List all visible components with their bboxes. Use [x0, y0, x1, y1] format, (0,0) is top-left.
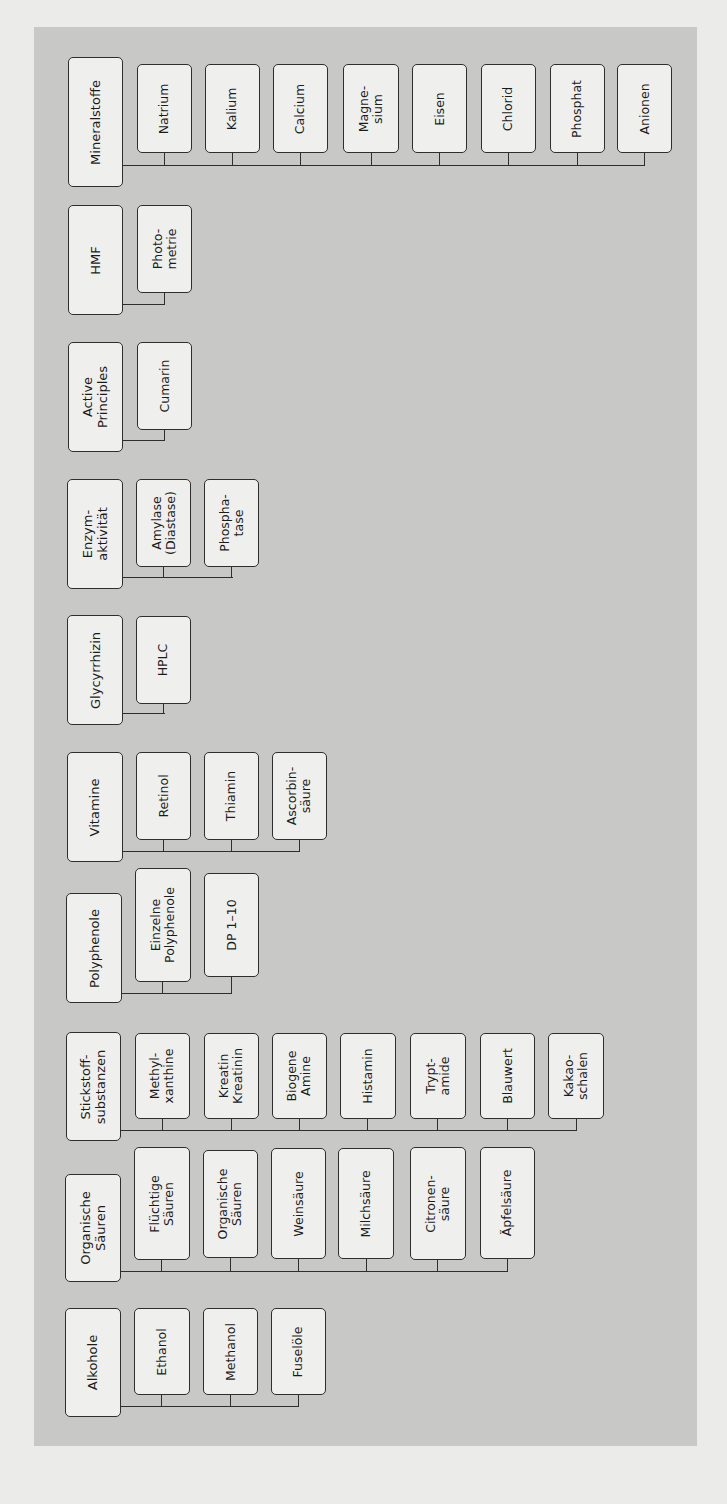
- node-enzymaktivitaet: Enzym- aktivität: [67, 479, 123, 589]
- connector-tick: [231, 977, 232, 993]
- node-hmf: HMF: [68, 205, 123, 315]
- connector-polyphenole: [122, 993, 232, 994]
- connector-tick: [367, 1119, 368, 1130]
- node-kalium: Kalium: [205, 64, 260, 153]
- connector-tick: [164, 153, 165, 165]
- node-amylase: Amylase (Diastase): [136, 479, 191, 567]
- node-methanol: Methanol: [203, 1308, 258, 1395]
- node-organische-saeuren-child: Organische Säuren: [203, 1150, 258, 1258]
- connector-tick: [507, 1259, 508, 1271]
- node-stickstoffsubstanzen: Stickstoff- substanzen: [66, 1032, 121, 1141]
- node-mineralstoffe: Mineralstoffe: [68, 57, 123, 187]
- connector-tick: [164, 293, 165, 305]
- connector-tick: [577, 153, 578, 165]
- node-natrium: Natrium: [137, 64, 192, 153]
- node-glycyrrhizin: Glycyrrhizin: [67, 615, 123, 725]
- node-einzelne-polyphenole: Einzelne Polyphenole: [135, 868, 191, 982]
- connector-vitamine: [123, 851, 300, 852]
- node-weinsaeure: Weinsäure: [271, 1148, 326, 1259]
- connector-tick: [163, 704, 164, 714]
- node-chlorid: Chlorid: [481, 64, 536, 153]
- node-blauwert: Blauwert: [480, 1033, 535, 1119]
- node-ethanol: Ethanol: [134, 1308, 190, 1395]
- node-photometrie: Photo- metrie: [137, 205, 192, 293]
- node-histamin: Histamin: [340, 1033, 396, 1119]
- connector-tick: [366, 1259, 367, 1271]
- connector-tick: [230, 1258, 231, 1271]
- node-vitamine: Vitamine: [67, 752, 123, 862]
- node-phosphat: Phosphat: [550, 64, 605, 153]
- node-phosphatase: Phospha- tase: [204, 479, 259, 567]
- connector-tick: [231, 840, 232, 851]
- node-cumarin: Cumarin: [137, 342, 192, 430]
- connector-enzymaktivitaet: [123, 577, 233, 578]
- connector-tick: [230, 1395, 231, 1406]
- connector-glycyrrhizin: [123, 713, 165, 714]
- connector-tick: [163, 840, 164, 851]
- connector-tick: [231, 567, 232, 578]
- connector-tick: [437, 1260, 438, 1271]
- node-ascorbinsaeure: Ascorbin- säure: [272, 752, 327, 840]
- connector-tick: [164, 430, 165, 441]
- connector-tick: [507, 1119, 508, 1130]
- node-fluechtige-saeuren: Flüchtige Säuren: [134, 1147, 190, 1260]
- node-aepfelsaeure: Äpfelsäure: [480, 1147, 535, 1259]
- node-active-principles: Active Principles: [68, 342, 123, 452]
- connector-tick: [439, 153, 440, 165]
- node-citronensaeure: Citronen- säure: [410, 1147, 466, 1260]
- connector-tick: [299, 1119, 300, 1130]
- connector-tick: [576, 1119, 577, 1130]
- node-dp-1-10: DP 1–10: [204, 873, 259, 977]
- node-biogene-amine: Biogene Amine: [272, 1033, 327, 1119]
- node-tryptamide: Trypt- amide: [410, 1033, 466, 1119]
- node-thiamin: Thiamin: [204, 752, 259, 840]
- node-magnesium: Magne- sium: [343, 64, 399, 153]
- connector-stickstoffsubstanzen: [121, 1130, 577, 1131]
- connector-alkohole: [121, 1406, 299, 1407]
- connector-mineralstoffe: [123, 165, 645, 166]
- connector-tick: [298, 1395, 299, 1406]
- connector-organische-saeuren: [121, 1271, 508, 1272]
- node-organische-saeuren: Organische Säuren: [65, 1174, 121, 1282]
- node-calcium: Calcium: [273, 64, 328, 153]
- node-anionen: Anionen: [617, 64, 672, 153]
- node-milchsaeure: Milchsäure: [338, 1148, 394, 1259]
- connector-tick: [508, 153, 509, 165]
- node-eisen: Eisen: [412, 64, 467, 153]
- connector-tick: [437, 1119, 438, 1130]
- node-methylxanthine: Methyl- xanthine: [135, 1033, 190, 1119]
- connector-tick: [644, 153, 645, 165]
- connector-tick: [371, 153, 372, 165]
- node-fuseloele: Fuselöle: [271, 1308, 326, 1395]
- connector-tick: [231, 1119, 232, 1130]
- connector-tick: [299, 840, 300, 851]
- connector-tick: [161, 1395, 162, 1406]
- connector-active-principles: [123, 440, 165, 441]
- node-retinol: Retinol: [136, 752, 191, 840]
- node-kreatin-kreatinin: Kreatin Kreatinin: [204, 1033, 259, 1119]
- connector-tick: [162, 982, 163, 993]
- node-kakaoschalen: Kakao- schalen: [548, 1033, 604, 1119]
- connector-tick: [163, 567, 164, 578]
- connector-tick: [161, 1260, 162, 1271]
- connector-hmf: [123, 304, 165, 305]
- connector-tick: [162, 1119, 163, 1130]
- connector-tick: [300, 153, 301, 165]
- connector-tick: [232, 153, 233, 165]
- connector-tick: [298, 1259, 299, 1271]
- node-alkohole: Alkohole: [65, 1308, 121, 1417]
- node-hplc: HPLC: [136, 616, 191, 704]
- node-polyphenole: Polyphenole: [66, 893, 122, 1003]
